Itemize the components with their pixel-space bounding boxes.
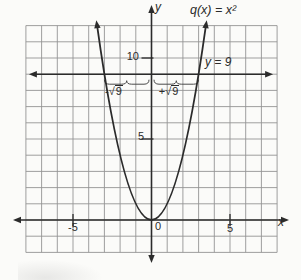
- plot-canvas: [0, 0, 301, 280]
- pos-root-prefix: +√: [159, 85, 171, 97]
- y-axis-label: y: [155, 1, 161, 14]
- neg-root-label: -√9: [97, 85, 131, 98]
- x-tick-label-neg5: -5: [63, 221, 83, 233]
- y-tick-label-10: 10: [119, 50, 139, 62]
- neg-root-radicand: 9: [115, 85, 123, 98]
- pos-root-radicand: 9: [171, 85, 179, 98]
- x-axis-label: x: [278, 216, 284, 229]
- parabola-graph-figure: y q(x) = x² y = 9 10 5 -5 5 0 x -√9 +√9: [0, 0, 301, 280]
- x-tick-label-5: 5: [220, 222, 240, 234]
- y-tick-label-5: 5: [128, 130, 144, 142]
- origin-label: 0: [155, 220, 161, 232]
- neg-root-prefix: -√: [105, 85, 115, 97]
- function-label: q(x) = x²: [190, 4, 236, 18]
- line-label: y = 9: [205, 56, 231, 69]
- pos-root-label: +√9: [152, 85, 186, 98]
